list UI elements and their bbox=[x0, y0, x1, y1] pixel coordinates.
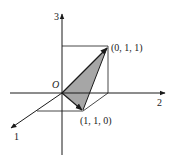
axis-2-label: 2 bbox=[157, 97, 162, 108]
vector-diagram: 3 2 1 O (0, 1, 1) (1, 1, 0) bbox=[0, 0, 170, 160]
point-011-label: (0, 1, 1) bbox=[111, 42, 143, 54]
axis-1-label: 1 bbox=[14, 131, 19, 142]
axis-1 bbox=[11, 93, 62, 128]
axis-3-label: 3 bbox=[54, 11, 59, 22]
point-110-label: (1, 1, 0) bbox=[80, 115, 112, 127]
shaded-triangle bbox=[62, 48, 107, 110]
origin-label: O bbox=[52, 79, 59, 90]
